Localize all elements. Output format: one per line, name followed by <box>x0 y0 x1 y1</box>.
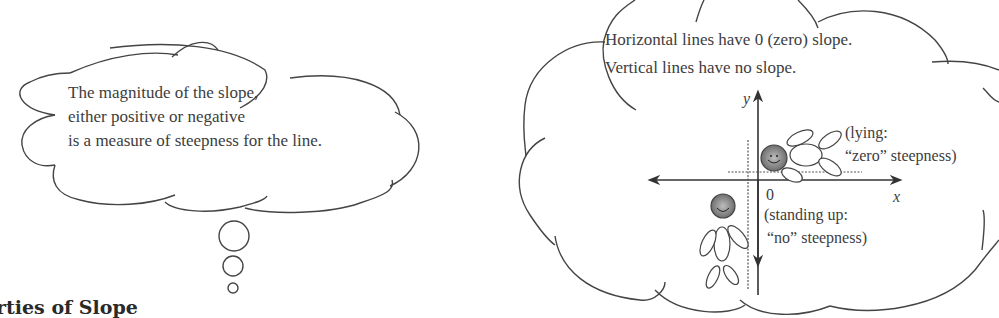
left-bubble-line-3: is a measure of steepness for the line. <box>68 131 322 151</box>
lying-note-line-2: “zero” steepness) <box>845 147 957 165</box>
lying-note-line-1: (lying: <box>845 124 888 142</box>
left-bubble-line-2: either positive or negative <box>68 107 245 127</box>
right-bubble-line-1: Horizontal lines have 0 (zero) slope. <box>605 30 852 50</box>
left-bubble-line-1: The magnitude of the slope, <box>68 83 258 103</box>
lying-figure <box>761 127 844 185</box>
face-icon <box>761 145 787 171</box>
left-thought-cloud <box>20 42 419 212</box>
standing-note-line-2: “no” steepness) <box>767 229 867 247</box>
origin-label: 0 <box>766 186 774 204</box>
y-axis-label: y <box>743 90 750 108</box>
standing-figure <box>697 194 752 290</box>
section-heading: rties of Slope <box>0 296 138 318</box>
thought-bubbles <box>219 221 249 293</box>
x-axis-label: x <box>893 188 900 206</box>
face-icon <box>711 194 735 218</box>
right-bubble-line-2: Vertical lines have no slope. <box>605 58 796 78</box>
standing-note-line-1: (standing up: <box>764 206 848 224</box>
